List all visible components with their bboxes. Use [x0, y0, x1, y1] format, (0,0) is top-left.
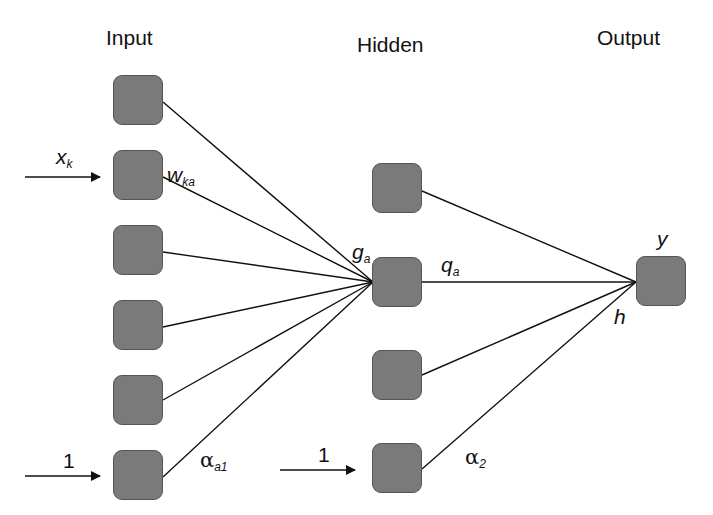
hidden-bias-node [372, 443, 422, 493]
input-node-3 [113, 225, 163, 275]
output-layer-title: Output [597, 26, 660, 50]
hidden-node-2 [372, 257, 422, 307]
output-input-label-h: h [614, 305, 626, 329]
input-layer-title: Input [106, 26, 153, 50]
bias-weight-label-alpha-a1: αa1 [200, 448, 228, 474]
input-bias-label: 1 [63, 449, 75, 473]
hidden-node-3 [372, 350, 422, 400]
bias-weight-label-alpha-2: α2 [465, 445, 486, 471]
input-bias-node [113, 450, 163, 500]
output-label-y: y [657, 227, 668, 251]
hidden-node-1 [372, 163, 422, 213]
input-node-2 [113, 150, 163, 200]
hidden-layer-title: Hidden [357, 33, 424, 57]
hidden-input-label-ga: ga [352, 240, 370, 266]
input-node-1 [113, 75, 163, 125]
hidden-bias-label: 1 [318, 443, 330, 467]
input-node-5 [113, 375, 163, 425]
input-node-4 [113, 300, 163, 350]
weight-label-wka: wka [167, 163, 195, 189]
input-label-xk: xk [56, 145, 73, 171]
output-node [636, 256, 686, 306]
hidden-output-label-qa: qa [441, 253, 459, 279]
